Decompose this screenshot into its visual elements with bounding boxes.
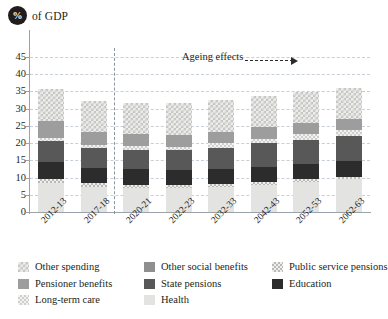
bar-segment-state-pensions <box>123 150 149 169</box>
bar-segment-long-term-care <box>81 145 107 149</box>
bar-segment-other-spending <box>123 103 149 134</box>
legend-item-other-social-benefits: Other social benefits <box>144 262 272 273</box>
bar-segment-public-service-pensions <box>293 179 319 182</box>
bar-segment-state-pensions <box>38 141 64 161</box>
bar-segment-education <box>293 164 319 179</box>
y-axis-tick-label: 10 <box>2 173 26 184</box>
bar-segment-education <box>81 168 107 184</box>
bar-segment-other-spending <box>336 88 362 119</box>
legend-row: Long-term care Health <box>18 295 378 306</box>
percent-badge-icon: % <box>8 6 27 25</box>
bar-segment-long-term-care <box>293 134 319 140</box>
bar-segment-pensioner-benefits <box>123 134 149 146</box>
bar-segment-state-pensions <box>81 148 107 167</box>
bar-segment-public-service-pensions <box>336 177 362 180</box>
legend-item-public-service-pensions: Public service pensions <box>272 262 378 273</box>
legend-label: Education <box>289 279 332 290</box>
bar-segment-education <box>38 162 64 179</box>
bar-segment-other-spending <box>166 103 192 134</box>
bar-segment-pensioner-benefits <box>336 119 362 130</box>
bar-2012-13 <box>38 57 64 212</box>
bar-segment-education <box>123 169 149 185</box>
y-axis-tick-label: 45 <box>2 52 26 63</box>
bar-segment-long-term-care <box>38 138 64 142</box>
y-axis-tick-mark <box>26 212 30 213</box>
y-axis-tick-label: 25 <box>2 121 26 132</box>
bar-segment-state-pensions <box>336 136 362 161</box>
chart-legend: Other spending Other social benefits Pub… <box>18 262 378 312</box>
legend-label: Other spending <box>35 262 99 273</box>
y-axis-tick-label: 0 <box>2 207 26 218</box>
legend-label: Public service pensions <box>289 262 388 273</box>
bar-segment-education <box>208 169 234 184</box>
y-axis-tick-label: 15 <box>2 155 26 166</box>
bar-segment-public-service-pensions <box>38 179 64 183</box>
legend-swatch-icon <box>272 262 283 272</box>
bar-segment-public-service-pensions <box>166 185 192 188</box>
legend-item-education: Education <box>272 279 378 290</box>
legend-swatch-icon <box>18 262 29 272</box>
legend-label: Health <box>161 295 189 306</box>
legend-swatch-icon <box>144 262 155 272</box>
bar-segment-pensioner-benefits <box>166 135 192 147</box>
bar-segment-pensioner-benefits <box>38 121 64 138</box>
bar-2062-63 <box>336 57 362 212</box>
bar-2032-33 <box>208 57 234 212</box>
axis-unit-label: of GDP <box>32 10 68 22</box>
bar-segment-education <box>336 161 362 176</box>
legend-item-long-term-care: Long-term care <box>18 295 144 306</box>
legend-label: State pensions <box>161 279 221 290</box>
bar-segment-other-spending <box>208 100 234 132</box>
y-axis-tick-label: 35 <box>2 86 26 97</box>
legend-label: Pensioner benefits <box>35 279 112 290</box>
bar-segment-state-pensions <box>166 150 192 169</box>
bar-segment-state-pensions <box>293 140 319 164</box>
bar-segment-state-pensions <box>208 148 234 169</box>
legend-label: Other social benefits <box>161 262 248 273</box>
legend-item-pensioner-benefits: Pensioner benefits <box>18 279 144 290</box>
legend-swatch-icon <box>144 279 155 289</box>
bar-segment-other-spending <box>251 96 277 128</box>
bar-segment-long-term-care <box>208 143 234 147</box>
bar-segment-pensioner-benefits <box>81 132 107 145</box>
bar-segment-pensioner-benefits <box>251 127 277 138</box>
x-axis-line <box>29 212 371 213</box>
legend-item-health: Health <box>144 295 272 306</box>
bar-segment-public-service-pensions <box>251 182 277 185</box>
bar-segment-other-spending <box>81 101 107 132</box>
bar-segment-state-pensions <box>251 143 277 166</box>
bar-2022-23 <box>166 57 192 212</box>
bar-segment-education <box>166 170 192 185</box>
legend-swatch-icon <box>18 279 29 289</box>
bar-segment-education <box>251 167 277 182</box>
bar-segment-public-service-pensions <box>81 183 107 186</box>
y-axis-tick-label: 30 <box>2 104 26 115</box>
legend-item-other-spending: Other spending <box>18 262 144 273</box>
legend-label: Long-term care <box>35 295 100 306</box>
bar-segment-other-spending <box>38 89 64 121</box>
bar-2017-18 <box>81 57 107 212</box>
legend-swatch-icon <box>272 279 283 289</box>
bar-segment-long-term-care <box>251 139 277 144</box>
bar-segment-long-term-care <box>336 130 362 136</box>
legend-item-state-pensions: State pensions <box>144 279 272 290</box>
legend-swatch-icon <box>18 295 29 305</box>
bar-segment-pensioner-benefits <box>208 132 234 144</box>
bar-segment-pensioner-benefits <box>293 123 319 134</box>
y-axis-tick-label: 20 <box>2 138 26 149</box>
bar-segment-long-term-care <box>123 146 149 150</box>
bar-2020-21 <box>123 57 149 212</box>
bar-segment-public-service-pensions <box>123 185 149 188</box>
legend-row: Other spending Other social benefits Pub… <box>18 262 378 273</box>
legend-swatch-icon <box>144 295 155 305</box>
y-axis-tick-label: 5 <box>2 190 26 201</box>
bar-2042-43 <box>251 57 277 212</box>
chart-header: % of GDP <box>8 6 68 25</box>
bar-segment-long-term-care <box>166 147 192 151</box>
bar-segment-public-service-pensions <box>208 184 234 187</box>
plot-area <box>30 57 370 212</box>
y-axis-tick-label: 40 <box>2 69 26 80</box>
bar-2052-53 <box>293 57 319 212</box>
bar-segment-other-spending <box>293 92 319 123</box>
